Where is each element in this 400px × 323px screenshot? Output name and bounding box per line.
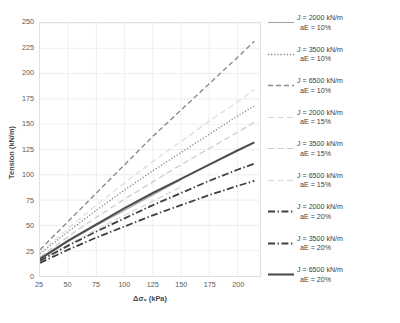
legend-label: J = 3500 kN/maE = 15% xyxy=(297,140,397,159)
legend-label-stiffness: J = 6500 kN/m xyxy=(297,172,343,180)
legend-label: J = 3500 kN/maE = 10% xyxy=(297,46,397,65)
legend-label-strain: aE = 15% xyxy=(297,150,397,160)
legend-label: J = 3500 kN/maE = 20% xyxy=(297,235,397,254)
legend-item[interactable]: J = 3500 kN/maE = 15% xyxy=(268,142,398,168)
legend-label-strain: aE = 10% xyxy=(297,87,397,97)
legend-label: J = 2000 kN/maE = 15% xyxy=(297,109,397,128)
x-axis-tick: 150 xyxy=(175,281,187,288)
legend-item[interactable]: J = 2000 kN/maE = 15% xyxy=(268,111,398,137)
legend-line-sample xyxy=(268,176,294,185)
y-axis-tick: 25 xyxy=(26,248,34,255)
legend-item[interactable]: J = 3500 kN/maE = 10% xyxy=(268,48,398,74)
x-axis-tick: 125 xyxy=(147,281,159,288)
legend-label-stiffness: J = 2000 kN/m xyxy=(297,203,343,211)
legend-item[interactable]: J = 6500 kN/maE = 20% xyxy=(268,268,398,294)
legend-line-sample xyxy=(268,270,294,279)
legend-label-strain: aE = 10% xyxy=(297,55,397,65)
y-axis-tick: 50 xyxy=(26,222,34,229)
y-axis-title: Tension (kN/m) xyxy=(7,113,16,193)
legend-label-stiffness: J = 6500 kN/m xyxy=(297,266,343,274)
legend-line-sample xyxy=(268,113,294,122)
legend-label: J = 2000 kN/maE = 10% xyxy=(297,14,397,33)
y-axis-tick: 200 xyxy=(22,69,34,76)
x-axis-tick: 200 xyxy=(232,281,244,288)
plot-area xyxy=(39,22,261,277)
y-axis-tick: 150 xyxy=(22,120,34,127)
y-axis-tick: 125 xyxy=(22,146,34,153)
y-axis-tick: 175 xyxy=(22,95,34,102)
legend-label-stiffness: J = 2000 kN/m xyxy=(297,14,343,22)
legend: J = 2000 kN/maE = 10%J = 3500 kN/maE = 1… xyxy=(268,16,398,306)
legend-item[interactable]: J = 3500 kN/maE = 20% xyxy=(268,237,398,263)
x-axis-tick: 175 xyxy=(204,281,216,288)
legend-label-stiffness: J = 6500 kN/m xyxy=(297,77,343,85)
x-axis-tick: 25 xyxy=(35,281,43,288)
series-line xyxy=(40,142,254,258)
y-axis-tick: 100 xyxy=(22,171,34,178)
series-line xyxy=(40,41,254,249)
legend-line-sample xyxy=(268,81,294,90)
legend-label-strain: aE = 10% xyxy=(297,24,397,34)
legend-line-sample xyxy=(268,18,294,27)
legend-line-sample xyxy=(268,144,294,153)
plot-lines xyxy=(40,23,260,276)
y-axis-tick: 0 xyxy=(30,273,34,280)
legend-label: J = 6500 kN/maE = 15% xyxy=(297,172,397,191)
legend-item[interactable]: J = 6500 kN/maE = 15% xyxy=(268,174,398,200)
legend-label: J = 2000 kN/maE = 20% xyxy=(297,203,397,222)
legend-label: J = 6500 kN/maE = 10% xyxy=(297,77,397,96)
legend-label-strain: aE = 15% xyxy=(297,181,397,191)
legend-line-sample xyxy=(268,239,294,248)
legend-item[interactable]: J = 2000 kN/maE = 20% xyxy=(268,205,398,231)
series-line xyxy=(40,122,254,257)
legend-label-stiffness: J = 2000 kN/m xyxy=(297,109,343,117)
x-axis-tick: 100 xyxy=(118,281,130,288)
legend-label-strain: aE = 20% xyxy=(297,244,397,254)
legend-label-strain: aE = 20% xyxy=(297,213,397,223)
legend-item[interactable]: J = 6500 kN/maE = 10% xyxy=(268,79,398,105)
y-axis-tick: 250 xyxy=(22,18,34,25)
series-line xyxy=(40,164,254,261)
legend-label-stiffness: J = 3500 kN/m xyxy=(297,140,343,148)
x-axis-tick: 75 xyxy=(92,281,100,288)
legend-label-strain: aE = 20% xyxy=(297,276,397,286)
x-axis-tick-labels: 255075100125150175200 xyxy=(39,281,261,293)
series-line xyxy=(40,106,254,254)
legend-label: J = 6500 kN/maE = 20% xyxy=(297,266,397,285)
legend-item[interactable]: J = 2000 kN/maE = 10% xyxy=(268,16,398,42)
y-axis-tick: 225 xyxy=(22,44,34,51)
legend-label-strain: aE = 15% xyxy=(297,118,397,128)
y-axis-tick: 75 xyxy=(26,197,34,204)
x-axis-title: Δσ₀ (kPa) xyxy=(39,294,261,303)
chart-figure: 0255075100125150175200225250 Tension (kN… xyxy=(0,0,400,323)
series-line xyxy=(40,180,181,260)
legend-line-sample xyxy=(268,207,294,216)
legend-label-stiffness: J = 3500 kN/m xyxy=(297,46,343,54)
x-axis-tick: 50 xyxy=(63,281,71,288)
legend-label-stiffness: J = 3500 kN/m xyxy=(297,235,343,243)
legend-line-sample xyxy=(268,50,294,59)
